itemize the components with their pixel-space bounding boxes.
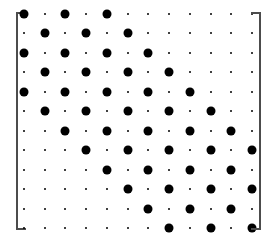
matrix-dot-small xyxy=(189,52,191,54)
matrix-dot-small xyxy=(210,52,212,54)
matrix-dot-large xyxy=(227,165,236,174)
matrix-dot-large xyxy=(102,87,111,96)
matrix-dot-large xyxy=(123,185,132,194)
matrix-dot-large xyxy=(82,107,91,116)
matrix-dot-large xyxy=(123,107,132,116)
matrix-dot-small xyxy=(168,208,170,210)
matrix-dot-small xyxy=(210,32,212,34)
matrix-dot-small xyxy=(127,52,129,54)
matrix-dot-small xyxy=(44,227,46,229)
matrix-dot-small xyxy=(106,71,108,73)
matrix-dot-small xyxy=(44,208,46,210)
matrix-dot-small xyxy=(44,188,46,190)
matrix-dot-large xyxy=(165,68,174,77)
dot-grid xyxy=(24,14,252,228)
matrix-dot-small xyxy=(147,110,149,112)
matrix-dot-small xyxy=(44,149,46,151)
matrix-dot-small xyxy=(106,188,108,190)
matrix-dot-large xyxy=(227,204,236,213)
matrix-dot-large xyxy=(185,126,194,135)
matrix-dot-small xyxy=(189,227,191,229)
matrix-dot-large xyxy=(20,10,29,19)
matrix-dot-small xyxy=(23,227,25,229)
matrix-dot-small xyxy=(106,149,108,151)
matrix-dot-small xyxy=(168,32,170,34)
matrix-dot-large xyxy=(206,224,215,233)
matrix-dot-small xyxy=(85,169,87,171)
matrix-dot-small xyxy=(189,32,191,34)
matrix-dot-small xyxy=(106,110,108,112)
matrix-dot-small xyxy=(168,169,170,171)
matrix-dot-large xyxy=(123,29,132,38)
matrix-dot-large xyxy=(82,29,91,38)
matrix-dot-small xyxy=(230,91,232,93)
matrix-dot-small xyxy=(168,91,170,93)
matrix-dot-large xyxy=(144,126,153,135)
matrix-dot-small xyxy=(64,32,66,34)
matrix-dot-large xyxy=(185,204,194,213)
matrix-dot-small xyxy=(106,227,108,229)
matrix-dot-large xyxy=(144,165,153,174)
matrix-dot-large xyxy=(123,146,132,155)
matrix-dot-small xyxy=(23,188,25,190)
matrix-dot-large xyxy=(144,87,153,96)
matrix-dot-small xyxy=(147,149,149,151)
matrix-dot-small xyxy=(85,208,87,210)
matrix-dot-small xyxy=(230,52,232,54)
matrix-dot-small xyxy=(85,130,87,132)
matrix-dot-small xyxy=(230,110,232,112)
matrix-dot-large xyxy=(206,107,215,116)
matrix-dot-small xyxy=(23,169,25,171)
matrix-dot-large xyxy=(40,107,49,116)
matrix-dot-large xyxy=(20,87,29,96)
matrix-dot-large xyxy=(185,87,194,96)
matrix-dot-small xyxy=(127,208,129,210)
matrix-dot-large xyxy=(40,68,49,77)
matrix-dot-small xyxy=(168,130,170,132)
matrix-dot-large xyxy=(61,87,70,96)
matrix-dot-large xyxy=(102,126,111,135)
matrix-dot-large xyxy=(82,146,91,155)
matrix-dot-small xyxy=(127,169,129,171)
matrix-dot-small xyxy=(64,188,66,190)
matrix-dot-small xyxy=(147,13,149,15)
matrix-dot-small xyxy=(23,32,25,34)
matrix-dot-small xyxy=(127,13,129,15)
matrix-dot-small xyxy=(210,208,212,210)
matrix-dot-large xyxy=(165,107,174,116)
matrix-dot-small xyxy=(23,130,25,132)
matrix-dot-small xyxy=(64,169,66,171)
matrix-dot-large xyxy=(206,146,215,155)
matrix-dot-small xyxy=(85,52,87,54)
matrix-dot-small xyxy=(230,227,232,229)
matrix-dot-small xyxy=(23,71,25,73)
matrix-dot-large xyxy=(40,29,49,38)
matrix-dot-large xyxy=(102,48,111,57)
matrix-dot-small xyxy=(147,71,149,73)
matrix-dot-small xyxy=(168,13,170,15)
matrix-dot-small xyxy=(106,32,108,34)
matrix-dot-small xyxy=(210,91,212,93)
matrix-dot-small xyxy=(44,52,46,54)
matrix-dot-large xyxy=(61,10,70,19)
matrix-dot-small xyxy=(210,169,212,171)
matrix-dot-small xyxy=(44,169,46,171)
matrix-dot-large xyxy=(61,126,70,135)
matrix-dot-large xyxy=(227,126,236,135)
matrix-dot-small xyxy=(147,32,149,34)
matrix-dot-small xyxy=(23,208,25,210)
matrix-dot-large xyxy=(102,165,111,174)
matrix-dot-large xyxy=(165,224,174,233)
matrix-dot-small xyxy=(210,13,212,15)
matrix-dot-small xyxy=(147,188,149,190)
matrix-dot-small xyxy=(85,13,87,15)
matrix-dot-small xyxy=(64,110,66,112)
matrix-dot-small xyxy=(44,91,46,93)
matrix-dot-large xyxy=(20,48,29,57)
matrix-dot-small xyxy=(23,149,25,151)
matrix-figure xyxy=(0,0,277,241)
matrix-dot-small xyxy=(44,13,46,15)
right-bracket xyxy=(251,12,261,230)
matrix-dot-small xyxy=(210,130,212,132)
matrix-dot-large xyxy=(185,165,194,174)
